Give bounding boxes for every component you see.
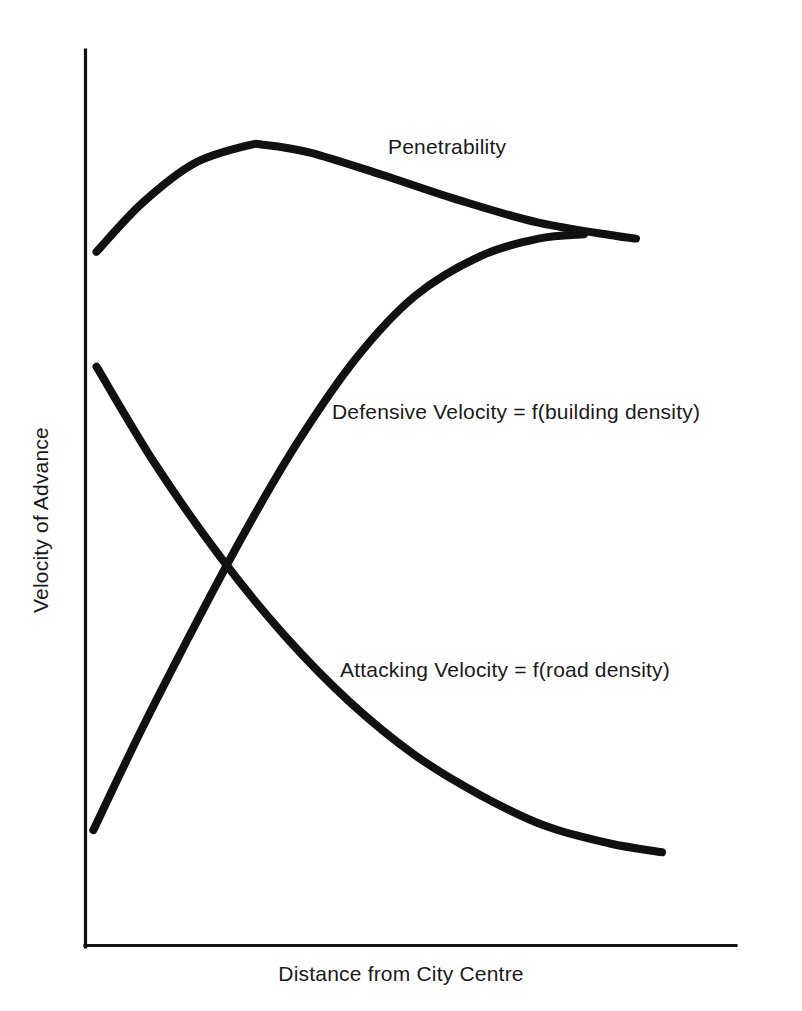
curve-attacking-velocity [97,367,663,853]
x-axis-label: Distance from City Centre [0,962,802,986]
series-label-penetrability: Penetrability [388,135,506,159]
y-axis-label: Velocity of Advance [29,410,53,630]
curve-defensive-velocity [93,234,584,830]
series-label-defensive-velocity: Defensive Velocity = f(building density) [332,400,700,424]
chart-figure: Penetrability Defensive Velocity = f(bui… [0,0,802,1011]
series-label-attacking-velocity: Attacking Velocity = f(road density) [340,658,670,682]
